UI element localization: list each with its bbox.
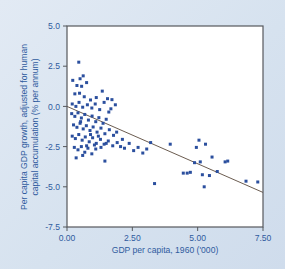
y-tick-label: 2.5: [48, 61, 60, 71]
data-point: [90, 152, 93, 155]
x-axis-title: GDP per capita, 1960 ('000): [112, 245, 219, 255]
data-point: [108, 128, 111, 131]
data-point: [71, 135, 74, 138]
data-point: [93, 143, 96, 146]
data-point: [81, 139, 84, 142]
data-point: [145, 148, 148, 151]
data-point: [112, 134, 115, 137]
y-tick-label: -5.0: [45, 182, 60, 192]
data-point: [92, 125, 95, 128]
data-point: [132, 149, 135, 152]
data-point: [71, 102, 74, 105]
data-point: [203, 185, 206, 188]
data-point: [71, 79, 74, 82]
y-axis-title-line1: Per capita GDP growth, adjusted for huma…: [19, 44, 29, 210]
data-point: [81, 154, 84, 157]
data-point: [197, 139, 200, 142]
data-point: [89, 133, 92, 136]
data-point: [105, 118, 108, 121]
y-tick-label: 0.0: [48, 102, 60, 112]
data-point: [76, 111, 79, 114]
data-point: [79, 77, 82, 80]
data-point: [84, 135, 87, 138]
data-point: [103, 160, 106, 163]
x-tick-label: 5.00: [189, 233, 206, 243]
data-point: [73, 92, 76, 95]
data-point: [86, 103, 89, 106]
data-point: [75, 84, 78, 87]
data-point: [103, 101, 106, 104]
y-tick-label: 5.0: [48, 21, 60, 31]
y-axis-ticks: 5.02.50.0-2.5-5.0-7.5: [45, 21, 67, 232]
data-point: [77, 133, 80, 136]
data-point: [88, 140, 91, 143]
data-point: [111, 144, 114, 147]
plot-area-background: [67, 26, 263, 227]
data-point: [85, 81, 88, 84]
data-point: [76, 148, 79, 151]
data-point: [83, 95, 86, 98]
data-point: [80, 145, 83, 148]
data-point: [201, 173, 204, 176]
data-point: [75, 126, 78, 129]
data-point: [99, 138, 102, 141]
y-tick-label: -2.5: [45, 142, 60, 152]
data-point: [99, 146, 102, 149]
data-point: [70, 112, 73, 115]
data-point: [123, 147, 126, 150]
data-point: [114, 103, 117, 106]
data-point: [226, 160, 229, 163]
data-point: [82, 74, 85, 77]
data-point: [182, 172, 185, 175]
data-point: [105, 142, 108, 145]
data-point: [107, 111, 110, 114]
x-tick-label: 7.50: [255, 233, 272, 243]
data-point: [91, 136, 94, 139]
data-point: [216, 170, 219, 173]
data-point: [75, 156, 78, 159]
data-point: [208, 174, 211, 177]
data-point: [74, 105, 77, 108]
data-point: [78, 92, 81, 95]
y-axis-title-line2: capital accumulation (% per annum): [30, 58, 40, 195]
data-point: [153, 182, 156, 185]
data-point: [195, 146, 198, 149]
data-point: [119, 145, 122, 148]
data-point: [141, 152, 144, 155]
data-point: [204, 143, 207, 146]
data-point: [97, 135, 100, 138]
data-point: [79, 120, 82, 123]
data-point: [94, 120, 97, 123]
data-point: [116, 141, 119, 144]
data-point: [103, 132, 106, 135]
data-point: [245, 180, 248, 183]
data-point: [193, 161, 196, 164]
data-point: [102, 122, 105, 125]
data-point: [256, 180, 259, 183]
data-point: [211, 156, 214, 159]
data-point: [97, 116, 100, 119]
x-tick-label: 0.00: [59, 233, 76, 243]
data-point: [85, 144, 88, 147]
data-point: [101, 90, 104, 93]
data-point: [115, 131, 118, 134]
data-point: [149, 141, 152, 144]
data-point: [83, 151, 86, 154]
x-axis-ticks: 0.002.505.007.50: [59, 227, 272, 243]
data-point: [89, 129, 92, 132]
data-point: [128, 142, 131, 145]
data-point: [98, 108, 101, 111]
y-tick-label: -7.5: [45, 222, 60, 232]
data-point: [109, 107, 112, 110]
data-point: [94, 148, 97, 151]
data-point: [169, 143, 172, 146]
data-point: [137, 146, 140, 149]
data-point: [80, 116, 83, 119]
data-point: [224, 160, 227, 163]
data-point: [83, 113, 86, 116]
data-point: [99, 127, 102, 130]
data-point: [95, 96, 98, 99]
data-point: [106, 97, 109, 100]
data-point: [91, 115, 94, 118]
data-point: [87, 119, 90, 122]
